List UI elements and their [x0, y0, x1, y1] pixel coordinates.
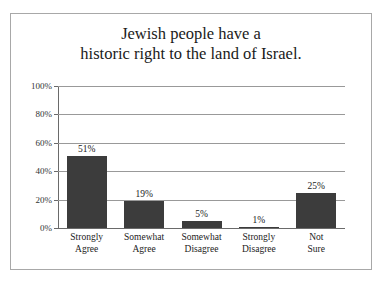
y-axis-tick-label: 40%	[36, 166, 53, 176]
bar	[296, 193, 336, 229]
chart-title-line-2: historic right to the land of Israel.	[11, 44, 371, 64]
x-axis-category-label: SomewhatAgree	[124, 232, 164, 255]
y-axis-tick-label: 80%	[36, 109, 53, 119]
bar	[67, 156, 107, 228]
bar	[182, 221, 222, 228]
bar-group: 19%	[124, 86, 164, 228]
bar-value-label: 19%	[135, 189, 152, 199]
bar-value-label: 25%	[308, 181, 325, 191]
bar-value-label: 5%	[195, 209, 208, 219]
chart-title: Jewish people have a historic right to t…	[11, 24, 371, 64]
bar-group: 25%	[296, 86, 336, 228]
bar	[239, 227, 279, 229]
bar-group: 1%	[239, 86, 279, 228]
x-axis-category-label: SomewhatDisagree	[181, 232, 221, 255]
plot-area: 0%20%40%60%80%100% 51%19%5%1%25% Strongl…	[58, 86, 345, 228]
x-axis-category-label: NotSure	[308, 232, 325, 255]
bar-group: 51%	[67, 86, 107, 228]
bar-group: 5%	[182, 86, 222, 228]
x-axis-category-label: StronglyAgree	[70, 232, 103, 255]
y-axis-tick-label: 100%	[31, 81, 52, 91]
x-axis-category-label: StronglyDisagree	[242, 232, 276, 255]
chart-title-line-1: Jewish people have a	[11, 24, 371, 44]
bar-value-label: 51%	[78, 144, 95, 154]
gridline	[58, 228, 345, 229]
y-axis-tick-label: 20%	[36, 195, 53, 205]
y-axis-tick-label: 60%	[36, 138, 53, 148]
y-axis-line	[58, 86, 59, 228]
bar-value-label: 1%	[253, 215, 266, 225]
bar	[124, 201, 164, 228]
chart-frame: Jewish people have a historic right to t…	[10, 13, 372, 270]
y-axis-tick-label: 0%	[40, 223, 52, 233]
